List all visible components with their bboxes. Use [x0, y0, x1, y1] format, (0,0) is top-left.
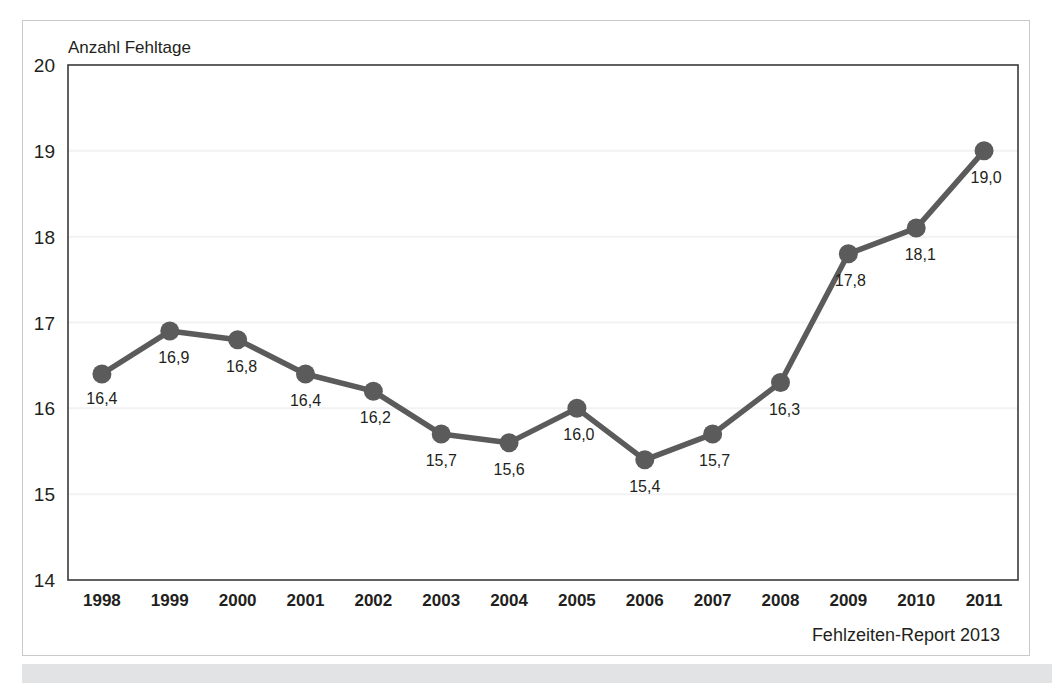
x-tick-label: 2008: [762, 591, 800, 610]
data-point-marker: [975, 141, 994, 160]
y-tick-label: 20: [34, 55, 55, 76]
data-point-marker: [364, 382, 383, 401]
x-tick-label: 1999: [151, 591, 189, 610]
data-point-marker: [432, 425, 451, 444]
data-point-label: 16,0: [563, 426, 594, 443]
data-point-label: 16,4: [290, 392, 321, 409]
chart-point-labels: 16,416,916,816,416,215,715,616,015,415,7…: [86, 169, 1001, 495]
x-tick-label: 2009: [829, 591, 867, 610]
chart-ytick-labels: 14151617181920: [34, 55, 56, 591]
footer-note: Fehlzeiten-Report 2013: [812, 625, 1000, 645]
data-point-label: 15,4: [629, 478, 660, 495]
data-point-label: 18,1: [905, 246, 936, 263]
data-point-label: 16,9: [158, 349, 189, 366]
x-tick-label: 2003: [422, 591, 460, 610]
x-tick-label: 2001: [287, 591, 325, 610]
data-point-marker: [228, 330, 247, 349]
chart-xtick-labels: 1998199920002001200220032004200520062007…: [83, 591, 1003, 610]
data-point-marker: [771, 373, 790, 392]
data-point-label: 16,3: [769, 401, 800, 418]
data-point-marker: [907, 219, 926, 238]
x-tick-label: 2010: [897, 591, 935, 610]
y-tick-label: 16: [34, 398, 55, 419]
data-point-label: 15,7: [699, 452, 730, 469]
data-point-marker: [500, 433, 519, 452]
x-tick-label: 2002: [354, 591, 392, 610]
data-point-marker: [160, 322, 179, 341]
data-point-label: 19,0: [971, 169, 1002, 186]
data-point-marker: [567, 399, 586, 418]
data-point-marker: [635, 450, 654, 469]
chart-series-markers: [92, 141, 993, 469]
series-polyline: [102, 151, 984, 460]
data-point-label: 17,8: [835, 272, 866, 289]
y-tick-label: 19: [34, 141, 55, 162]
data-point-marker: [92, 365, 111, 384]
y-tick-label: 18: [34, 227, 55, 248]
y-tick-label: 15: [34, 484, 55, 505]
data-point-label: 15,7: [426, 452, 457, 469]
figure-root: 14151617181920 1998199920002001200220032…: [0, 0, 1052, 683]
chart-gridlines: [68, 151, 1018, 494]
y-tick-label: 14: [34, 570, 56, 591]
x-tick-label: 2000: [219, 591, 257, 610]
data-point-label: 15,6: [494, 461, 525, 478]
line-chart: 14151617181920 1998199920002001200220032…: [0, 0, 1052, 683]
y-axis-title: Anzahl Fehltage: [68, 38, 191, 57]
data-point-label: 16,8: [226, 358, 257, 375]
x-tick-label: 2004: [490, 591, 528, 610]
y-tick-label: 17: [34, 313, 55, 334]
data-point-marker: [839, 244, 858, 263]
scan-edge-bar: [22, 664, 1052, 683]
data-point-marker: [703, 425, 722, 444]
x-tick-label: 2006: [626, 591, 664, 610]
data-point-marker: [296, 365, 315, 384]
x-tick-label: 2007: [694, 591, 732, 610]
x-tick-label: 2005: [558, 591, 596, 610]
x-tick-label: 1998: [83, 591, 121, 610]
data-point-label: 16,2: [360, 409, 391, 426]
data-point-label: 16,4: [86, 390, 117, 407]
x-tick-label: 2011: [966, 591, 1003, 610]
chart-series-line: [102, 151, 984, 460]
